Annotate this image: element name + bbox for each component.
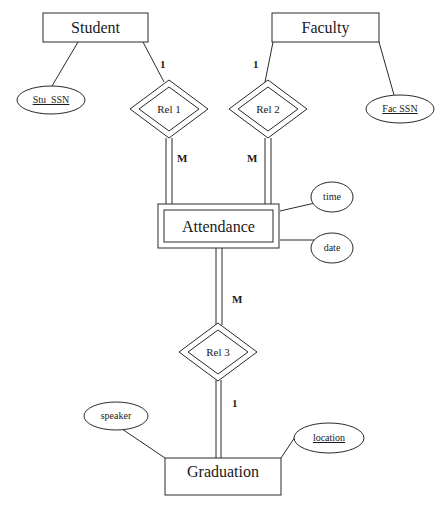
cardinality-rel1-attendance: M xyxy=(177,152,188,164)
entity-attendance-label: Attendance xyxy=(182,218,255,235)
attribute-location[interactable]: location xyxy=(294,423,364,453)
entity-faculty-label: Faculty xyxy=(302,19,350,37)
connector-graduation-location xyxy=(281,437,295,458)
connector-graduation-speaker xyxy=(122,429,165,458)
attribute-location-label: location xyxy=(313,432,345,443)
attribute-stu-ssn-label: Stu_SSN xyxy=(33,94,70,105)
attribute-time-label: time xyxy=(323,191,341,202)
connector-attendance-time xyxy=(280,203,315,211)
relationship-rel1[interactable]: Rel 1 xyxy=(130,80,208,138)
attribute-stu-ssn[interactable]: Stu_SSN xyxy=(17,86,85,114)
cardinality-rel3-graduation: 1 xyxy=(232,397,238,409)
relationship-rel1-label: Rel 1 xyxy=(157,103,181,115)
entity-graduation[interactable]: Graduation xyxy=(165,458,281,495)
connector-student-stussn xyxy=(52,42,78,86)
cardinality-rel2-attendance: M xyxy=(247,152,258,164)
relationship-rel2-label: Rel 2 xyxy=(256,103,280,115)
entity-student[interactable]: Student xyxy=(43,13,148,42)
relationship-rel3-label: Rel 3 xyxy=(206,346,230,358)
relationship-rel3[interactable]: Rel 3 xyxy=(179,323,257,381)
entity-graduation-label: Graduation xyxy=(187,463,259,480)
attribute-fac-ssn-label: Fac SSN xyxy=(382,103,417,114)
attribute-time[interactable]: time xyxy=(311,182,353,212)
connector-rel3-graduation xyxy=(216,380,221,458)
er-diagram-canvas: Student Faculty Attendance Graduation Re… xyxy=(0,0,447,512)
attribute-date[interactable]: date xyxy=(311,233,353,263)
attribute-fac-ssn[interactable]: Fac SSN xyxy=(366,95,434,123)
connector-rel1-attendance xyxy=(166,138,172,205)
cardinality-student-rel1: 1 xyxy=(160,58,166,70)
attribute-speaker-label: speaker xyxy=(101,410,132,421)
entity-faculty[interactable]: Faculty xyxy=(272,13,379,42)
attribute-speaker[interactable]: speaker xyxy=(84,402,148,430)
entity-attendance-weak[interactable]: Attendance xyxy=(158,204,279,248)
cardinality-attendance-rel3: M xyxy=(232,293,243,305)
connector-faculty-facssn xyxy=(379,42,394,95)
attribute-date-label: date xyxy=(324,242,341,253)
connector-rel2-attendance xyxy=(265,138,271,205)
entity-student-label: Student xyxy=(71,19,120,36)
connector-attendance-rel3 xyxy=(216,248,222,325)
connector-faculty-rel2 xyxy=(265,42,273,82)
cardinality-faculty-rel2: 1 xyxy=(253,58,259,70)
relationship-rel2[interactable]: Rel 2 xyxy=(229,80,307,138)
